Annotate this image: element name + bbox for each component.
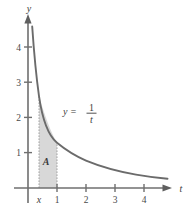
y-tick-label-2: 2 [16, 113, 21, 123]
t-tick-label-2: 2 [84, 195, 89, 205]
t-axis-arrowhead [163, 184, 173, 191]
y-tick-label-4: 4 [16, 43, 21, 53]
figure-area-under-curve: 4 3 2 1 x 1 2 3 4 y t y = 1 t A [0, 0, 190, 213]
equation-denominator: t [90, 114, 93, 125]
y-tick-label-3: 3 [16, 78, 21, 88]
t-tick-label-x: x [36, 194, 42, 205]
t-tick-label-4: 4 [142, 195, 147, 205]
y-tick-label-1: 1 [16, 148, 21, 158]
plot-canvas: 4 3 2 1 x 1 2 3 4 y t y = 1 t A [0, 0, 190, 213]
equation-numerator: 1 [89, 102, 94, 113]
y-axis-label: y [26, 3, 32, 14]
t-tick-label-1: 1 [55, 195, 60, 205]
region-label-a: A [42, 156, 50, 167]
y-axis-arrowhead [24, 14, 31, 24]
equation-lhs: y = [62, 106, 77, 117]
curve-equation-label: y = 1 t [62, 102, 97, 126]
t-axis-label: t [180, 183, 183, 194]
t-tick-label-3: 3 [113, 195, 118, 205]
